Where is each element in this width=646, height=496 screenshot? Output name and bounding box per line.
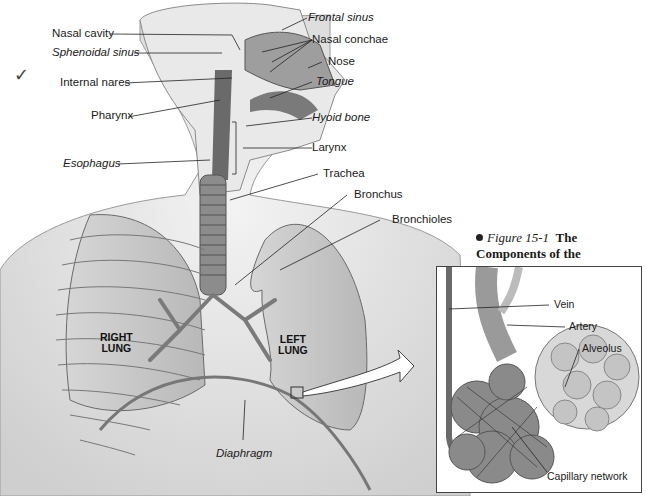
label-alveolus: Alveolus [582, 343, 622, 354]
check-mark-annotation: ✓ [14, 64, 29, 86]
label-nose: Nose [328, 56, 355, 68]
label-diaphragm: Diaphragm [216, 448, 272, 460]
label-tongue: Tongue [316, 76, 354, 88]
label-hyoid-bone: Hyoid bone [312, 112, 370, 124]
alveolus-inset: Vein Artery Alveolus Capillary network [436, 266, 642, 493]
alveolus-illustration [437, 267, 641, 492]
label-bronchus: Bronchus [354, 189, 403, 201]
figure-number: Figure 15-1 [487, 230, 549, 245]
label-esophagus: Esophagus [63, 158, 121, 170]
label-capillary-network: Capillary network [547, 471, 628, 482]
left-lung-line2: LUNG [278, 345, 308, 356]
label-bronchioles: Bronchioles [392, 214, 452, 226]
respiratory-diagram: ✓ Nasal cavity Sphenoidal sinus Internal… [0, 0, 646, 496]
label-sphenoidal-sinus: Sphenoidal sinus [52, 47, 140, 59]
label-vein: Vein [554, 299, 574, 310]
label-nasal-cavity: Nasal cavity [52, 28, 114, 40]
label-left-lung: LEFT LUNG [278, 334, 308, 356]
label-artery: Artery [569, 321, 597, 332]
label-pharynx: Pharynx [91, 110, 133, 122]
label-trachea: Trachea [323, 168, 365, 180]
label-nasal-conchae: Nasal conchae [312, 34, 388, 46]
bullet-icon [476, 234, 483, 241]
label-internal-nares: Internal nares [60, 77, 130, 89]
right-lung-line2: LUNG [100, 343, 133, 354]
label-right-lung: RIGHT LUNG [100, 332, 133, 354]
label-frontal-sinus: Frontal sinus [308, 12, 374, 24]
label-larynx: Larynx [312, 142, 347, 154]
